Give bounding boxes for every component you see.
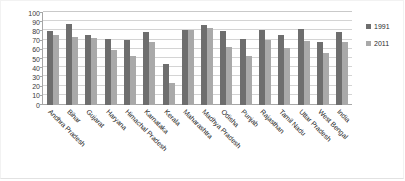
- bar-2011: [111, 50, 117, 105]
- bar-2011: [130, 56, 136, 105]
- bar-2011: [323, 53, 329, 105]
- y-tick-label: 0: [20, 102, 40, 109]
- bar-2011: [246, 56, 252, 105]
- bar-group: [275, 13, 294, 105]
- legend-item[interactable]: 1991: [366, 22, 404, 30]
- x-tick-slot: Karnataka: [140, 107, 159, 181]
- y-tick-label: 20: [20, 83, 40, 90]
- x-tick-label: India: [336, 108, 352, 124]
- y-tick-label: 40: [20, 65, 40, 72]
- bar-group: [333, 13, 352, 105]
- bar-group: [294, 13, 313, 105]
- bar-group: [217, 13, 236, 105]
- x-tick-slot: Punjab: [236, 107, 255, 181]
- y-tick-label: 100: [20, 10, 40, 17]
- bar-2011: [169, 83, 175, 105]
- bar-group: [255, 13, 274, 105]
- y-tick-label: 10: [20, 92, 40, 99]
- bar-2011: [342, 42, 348, 105]
- bar-group: [198, 13, 217, 105]
- x-tick-slot: India: [333, 107, 352, 181]
- y-tick-label: 90: [20, 19, 40, 26]
- bar-group: [120, 13, 139, 105]
- y-axis: 1009080706050403020100: [16, 13, 40, 105]
- y-tick-label: 80: [20, 28, 40, 35]
- bar-group: [178, 13, 197, 105]
- bar-group: [313, 13, 332, 105]
- gridline: [43, 11, 352, 12]
- legend-swatch-2011: [366, 41, 371, 46]
- y-tick-label: 60: [20, 46, 40, 53]
- bar-group: [236, 13, 255, 105]
- y-tick-label: 50: [20, 56, 40, 63]
- bar-group: [43, 13, 62, 105]
- bar-2011: [304, 41, 310, 105]
- x-axis: Andhra PradeshBiharGujaratHaryanaHimacha…: [43, 107, 352, 181]
- x-tick-slot: Himachal Pradesh: [120, 107, 139, 181]
- bar-group: [140, 13, 159, 105]
- bar-2011: [91, 38, 97, 105]
- x-tick-slot: Rajasthan: [255, 107, 274, 181]
- x-tick-slot: Maharashtra: [178, 107, 197, 181]
- x-tick-slot: Uttar Pradesh: [294, 107, 313, 181]
- bar-2011: [72, 37, 78, 105]
- bar-2011: [284, 48, 290, 105]
- x-tick-slot: West Bengal: [313, 107, 332, 181]
- x-tick-slot: Tamil Nadu: [275, 107, 294, 181]
- x-tick-slot: Madhya Pradesh: [198, 107, 217, 181]
- legend-swatch-1991: [366, 24, 371, 29]
- bar-group: [82, 13, 101, 105]
- bar-2011: [149, 42, 155, 105]
- legend-item[interactable]: 2011: [366, 39, 404, 47]
- legend: 19912011: [366, 22, 404, 56]
- bar-2011: [53, 35, 59, 105]
- x-tick-slot: Kerala: [159, 107, 178, 181]
- legend-label: 2011: [374, 40, 389, 47]
- x-tick-slot: Andhra Pradesh: [43, 107, 62, 181]
- x-tick-slot: Bihar: [62, 107, 81, 181]
- bar-2011: [265, 40, 271, 105]
- bar-2011: [188, 30, 194, 105]
- x-tick-label: Bihar: [65, 108, 82, 125]
- bar-2011: [226, 47, 232, 105]
- y-tick-label: 30: [20, 74, 40, 81]
- bar-group: [101, 13, 120, 105]
- legend-label: 1991: [374, 23, 390, 30]
- x-tick-slot: Odisha: [217, 107, 236, 181]
- bar-chart: 1009080706050403020100 Andhra PradeshBih…: [0, 0, 405, 181]
- bars-layer: [43, 13, 352, 105]
- bar-group: [62, 13, 81, 105]
- x-tick-slot: Haryana: [101, 107, 120, 181]
- bar-2011: [207, 28, 213, 105]
- bar-group: [159, 13, 178, 105]
- x-tick-slot: Gujarat: [82, 107, 101, 181]
- y-tick-label: 70: [20, 37, 40, 44]
